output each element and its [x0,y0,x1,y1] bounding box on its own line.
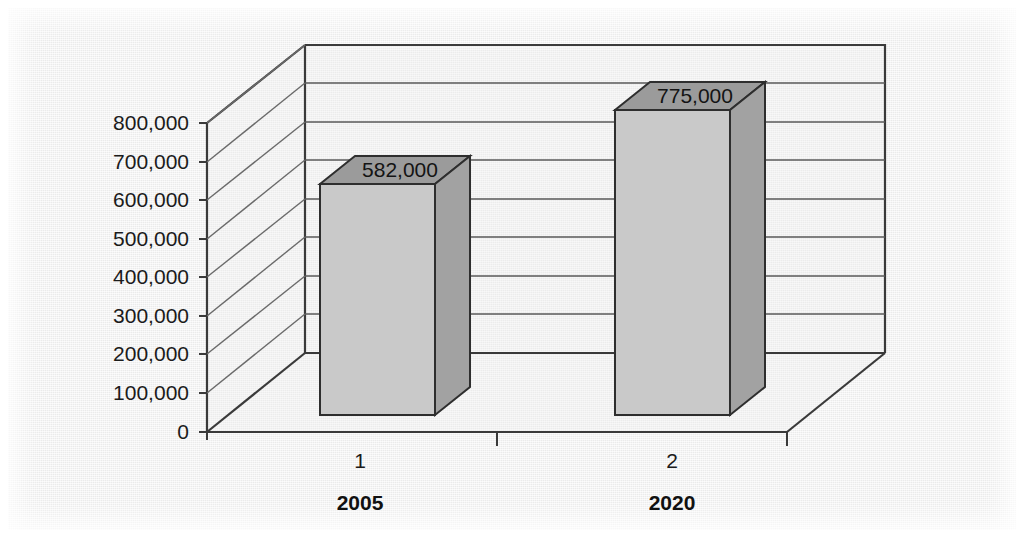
y-axis-label-700000: 700,000 [113,150,189,173]
bar-front-face-2020[interactable] [615,110,730,415]
x-axis-index-label-1: 1 [354,449,366,472]
bar-group-2005[interactable]: 582,000 [320,156,470,415]
y-axis-label-500000: 500,000 [113,227,189,250]
y-axis-label-600000: 600,000 [113,188,189,211]
bar-group-2020[interactable]: 775,000 [615,82,765,415]
x-axis-category-label-2020: 2020 [649,491,696,514]
y-axis-label-300000: 300,000 [113,304,189,327]
bar-front-face-2005[interactable] [320,184,435,415]
y-axis-label-0: 0 [177,420,189,443]
y-axis-label-200000: 200,000 [113,342,189,365]
bar-value-label-2020: 775,000 [657,84,733,107]
y-axis-ticks [199,123,207,432]
bar-side-face-2020[interactable] [730,82,765,415]
x-axis-category-label-2005: 2005 [337,491,384,514]
x-axis-labels: 1 2005 2 2020 [337,449,696,514]
plot-frame [207,45,885,432]
y-axis-label-800000: 800,000 [113,111,189,134]
x-axis-index-label-2: 2 [666,449,678,472]
y-axis-label-400000: 400,000 [113,265,189,288]
y-axis-tick-labels: 800,000 700,000 600,000 500,000 400,000 … [113,111,189,443]
bar-value-label-2005: 582,000 [362,158,438,181]
chart-page: 800,000 700,000 600,000 500,000 400,000 … [0,0,1024,540]
bar-side-face-2005[interactable] [435,156,470,415]
y-axis-label-100000: 100,000 [113,381,189,404]
bar-chart-3d: 800,000 700,000 600,000 500,000 400,000 … [0,0,1024,540]
floor-panel [207,353,885,432]
